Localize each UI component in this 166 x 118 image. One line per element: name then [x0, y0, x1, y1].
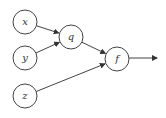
nodes-group: xyzqf — [13, 10, 129, 108]
node-x: x — [13, 10, 37, 34]
edge-z-to-f-arrow — [36, 64, 105, 92]
node-z: z — [13, 84, 37, 108]
computational-graph-diagram: xyzqf — [0, 0, 166, 118]
node-q: q — [59, 25, 83, 49]
edges-group — [36, 26, 157, 92]
edge-q-to-f-arrow — [82, 42, 105, 53]
node-x-label: x — [22, 16, 28, 27]
node-q-label: q — [68, 31, 74, 42]
node-z-label: z — [21, 90, 28, 101]
node-f: f — [105, 47, 129, 71]
node-y: y — [13, 46, 37, 70]
node-y-label: y — [21, 52, 28, 63]
edge-y-to-q-arrow — [36, 42, 59, 53]
edge-x-to-q-arrow — [36, 26, 58, 33]
diagram-svg: xyzqf — [0, 0, 166, 118]
